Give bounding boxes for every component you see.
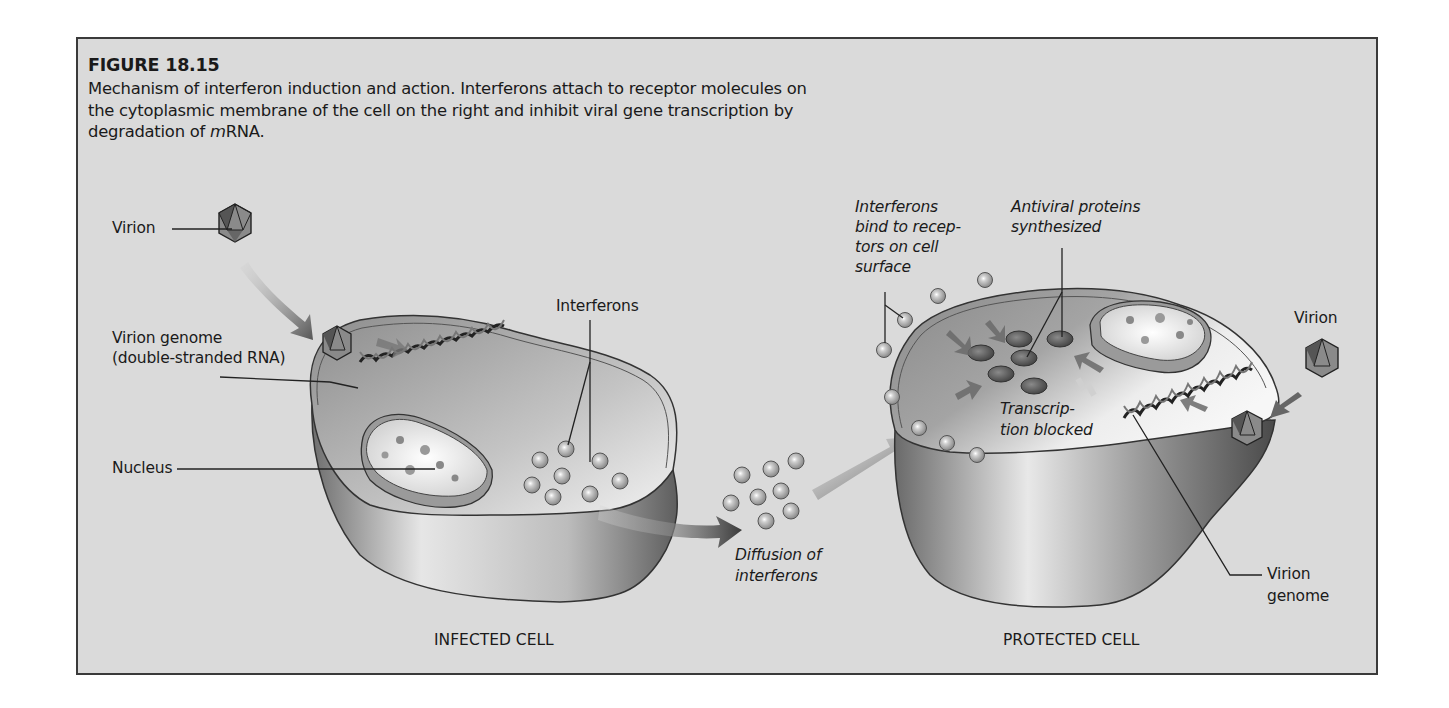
label-bind-line1: Interferons bbox=[855, 198, 938, 217]
label-diffusion-line1: Diffusion of bbox=[735, 546, 821, 565]
caption-text: Mechanism of interferon induction and ac… bbox=[88, 79, 807, 141]
diffusion-interferon-particles bbox=[723, 453, 804, 529]
label-virion-genome-detail: (double-stranded RNA) bbox=[112, 349, 285, 368]
label-bind-line4: surface bbox=[855, 258, 911, 277]
protected-cell-title: PROTECTED CELL bbox=[1003, 631, 1139, 650]
virion-icon bbox=[219, 204, 251, 242]
figure-title: FIGURE 18.15 bbox=[88, 55, 220, 75]
label-antiviral-line1: Antiviral proteins bbox=[1011, 198, 1140, 217]
label-interferons: Interferons bbox=[556, 297, 639, 316]
caption-italic-m: m bbox=[210, 122, 226, 141]
label-virion-genome-right-line2: genome bbox=[1267, 587, 1329, 606]
protected-virion-attached-icon bbox=[1232, 411, 1262, 445]
label-virion-genome-right-line1: Virion bbox=[1267, 565, 1310, 584]
virion-attached-icon bbox=[323, 326, 351, 360]
label-diffusion-line2: interferons bbox=[735, 567, 818, 586]
label-bind-line2: bind to recep- bbox=[855, 218, 961, 237]
label-bind-line3: tors on cell bbox=[855, 238, 938, 257]
figure-caption: Mechanism of interferon induction and ac… bbox=[88, 78, 808, 143]
label-virion-left: Virion bbox=[112, 219, 155, 238]
caption-text-end: RNA. bbox=[226, 122, 265, 141]
virion-approach-arrow bbox=[240, 262, 313, 340]
infected-cell bbox=[310, 315, 742, 602]
infected-cell-title: INFECTED CELL bbox=[434, 631, 554, 650]
label-virion-right: Virion bbox=[1294, 309, 1337, 328]
label-antiviral-line2: synthesized bbox=[1011, 218, 1101, 237]
label-transcription-line1: Transcrip- bbox=[1000, 400, 1075, 419]
label-virion-genome: Virion genome bbox=[112, 329, 222, 348]
label-transcription-line2: tion blocked bbox=[1000, 421, 1093, 440]
label-nucleus: Nucleus bbox=[112, 459, 172, 478]
right-virion-icon bbox=[1306, 339, 1338, 377]
